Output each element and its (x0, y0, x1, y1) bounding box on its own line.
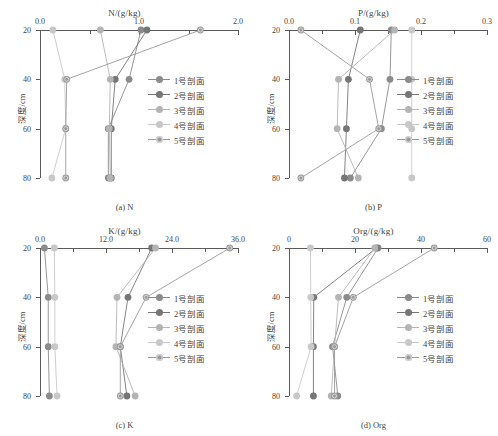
x-tick-label-a-1: 1.0 (134, 17, 144, 26)
legend-item-c-4[interactable]: 4号剖面 (148, 335, 205, 350)
data-point-b-s1-d40 (387, 76, 394, 83)
data-point-d-s4-d60 (308, 343, 315, 350)
legend-item-b-5[interactable]: 5号剖面 (397, 132, 454, 147)
legend-item-a-4[interactable]: 4号剖面 (148, 117, 205, 132)
legend-a: 1号剖面2号剖面3号剖面4号剖面5号剖面 (148, 72, 205, 147)
legend-dot-icon-a-5 (156, 136, 163, 143)
legend-dot-icon-b-4 (405, 121, 412, 128)
data-point-a-s1-d20 (138, 27, 145, 34)
panel-a-nitrogen: N/(g/kg) 深度/cm 0.01.02.020406080 1号剖面2号剖… (0, 0, 249, 218)
x-tick-label-d-2: 40 (417, 235, 425, 244)
y-tick-label-c-0: 20 (23, 244, 31, 253)
legend-item-c-5[interactable]: 5号剖面 (148, 350, 205, 365)
legend-item-d-5[interactable]: 5号剖面 (397, 350, 454, 365)
panel-caption-b: (b) P (249, 202, 498, 212)
x-tick-label-c-0: 0.0 (35, 235, 45, 244)
legend-item-a-3[interactable]: 3号剖面 (148, 102, 205, 117)
y-axis-title-c: 深度/cm (15, 312, 27, 343)
legend-b: 1号剖面2号剖面3号剖面4号剖面5号剖面 (397, 72, 454, 147)
series-line-a-4 (52, 30, 66, 178)
legend-dot-icon-c-5 (156, 354, 163, 361)
legend-marker-icon-b-5 (397, 135, 419, 145)
legend-item-c-3[interactable]: 3号剖面 (148, 320, 205, 335)
x-tick-label-d-0: 0 (287, 235, 291, 244)
data-point-b-s4-d20 (408, 27, 415, 34)
x-tick-label-d-3: 60 (483, 235, 491, 244)
y-tick-label-c-1: 40 (23, 293, 31, 302)
legend-dot-icon-a-1 (156, 76, 163, 83)
legend-dot-icon-d-3 (405, 324, 412, 331)
legend-marker-icon-d-4 (397, 338, 419, 348)
panel-b-phosphorus: P/(g/kg) 深度/cm 0.00.10.20.320406080 1号剖面… (249, 0, 498, 218)
legend-marker-icon-a-4 (148, 120, 170, 130)
series-layer-b (289, 30, 487, 178)
legend-item-b-1[interactable]: 1号剖面 (397, 72, 454, 87)
data-point-b-s3-d40 (335, 76, 342, 83)
x-tick-label-b-1: 0.1 (350, 17, 360, 26)
panel-c-potassium: K/(g/kg) 深度/cm 0.012.024.036.020406080 1… (0, 218, 249, 436)
data-point-b-s3-d80 (355, 175, 362, 182)
legend-item-d-1[interactable]: 1号剖面 (397, 290, 454, 305)
legend-item-c-2[interactable]: 2号剖面 (148, 305, 205, 320)
legend-item-b-4[interactable]: 4号剖面 (397, 117, 454, 132)
legend-item-a-5[interactable]: 5号剖面 (148, 132, 205, 147)
y-tick-label-d-1: 40 (272, 293, 280, 302)
y-tick-label-c-3: 80 (23, 392, 31, 401)
legend-dot-icon-a-4 (156, 121, 163, 128)
legend-item-c-1[interactable]: 1号剖面 (148, 290, 205, 305)
data-point-c-s1-d20 (41, 245, 48, 252)
data-point-b-s2-d60 (343, 125, 350, 132)
y-tick-label-a-0: 20 (23, 26, 31, 35)
legend-item-d-4[interactable]: 4号剖面 (397, 335, 454, 350)
data-point-c-s3-d20 (152, 245, 159, 252)
series-line-c-4 (54, 248, 57, 396)
data-point-c-s4-d20 (51, 245, 58, 252)
legend-dot-icon-b-2 (405, 91, 412, 98)
legend-label-b-3: 3号剖面 (423, 104, 454, 116)
legend-item-a-1[interactable]: 1号剖面 (148, 72, 205, 87)
y-tick-label-c-2: 60 (23, 342, 31, 351)
legend-item-a-2[interactable]: 2号剖面 (148, 87, 205, 102)
y-tick-label-d-0: 20 (272, 244, 280, 253)
legend-marker-icon-a-3 (148, 105, 170, 115)
plot-area-a: 0.01.02.020406080 (40, 30, 238, 178)
legend-marker-icon-b-2 (397, 90, 419, 100)
data-point-c-s1-d60 (45, 343, 52, 350)
y-tick-label-b-2: 60 (272, 124, 280, 133)
series-layer-c (40, 248, 238, 396)
x-tick-d-3 (487, 248, 488, 253)
legend-marker-icon-d-2 (397, 308, 419, 318)
plot-area-b: 0.00.10.20.320406080 (289, 30, 487, 178)
legend-dot-icon-d-4 (405, 339, 412, 346)
legend-item-b-3[interactable]: 3号剖面 (397, 102, 454, 117)
series-line-d-2 (313, 248, 376, 396)
data-point-b-s3-d60 (334, 125, 341, 132)
series-line-c-2 (120, 248, 151, 396)
series-layer-a (40, 30, 238, 178)
data-point-d-s3-d40 (335, 294, 342, 301)
data-point-c-s4-d80 (54, 393, 61, 400)
data-point-a-s3-d20 (97, 27, 104, 34)
legend-marker-icon-b-3 (397, 105, 419, 115)
legend-label-b-4: 4号剖面 (423, 119, 454, 131)
legend-item-b-2[interactable]: 2号剖面 (397, 87, 454, 102)
data-point-d-s1-d40 (343, 294, 350, 301)
series-line-b-1 (350, 30, 391, 178)
data-point-b-s2-d40 (345, 76, 352, 83)
legend-label-d-2: 2号剖面 (423, 307, 454, 319)
panel-caption-c: (c) K (0, 420, 249, 430)
legend-label-a-2: 2号剖面 (174, 89, 205, 101)
legend-label-c-1: 1号剖面 (174, 292, 205, 304)
legend-item-d-3[interactable]: 3号剖面 (397, 320, 454, 335)
data-point-a-s3-d80 (107, 175, 114, 182)
x-tick-label-c-2: 24.0 (165, 235, 179, 244)
legend-marker-icon-c-3 (148, 323, 170, 333)
legend-dot-icon-c-2 (156, 309, 163, 316)
legend-dot-icon-d-5 (405, 354, 412, 361)
x-tick-label-c-1: 12.0 (99, 235, 113, 244)
legend-marker-icon-d-3 (397, 323, 419, 333)
y-tick-label-b-1: 40 (272, 75, 280, 84)
legend-item-d-2[interactable]: 2号剖面 (397, 305, 454, 320)
plot-area-c: 0.012.024.036.020406080 (40, 248, 238, 396)
legend-label-a-4: 4号剖面 (174, 119, 205, 131)
